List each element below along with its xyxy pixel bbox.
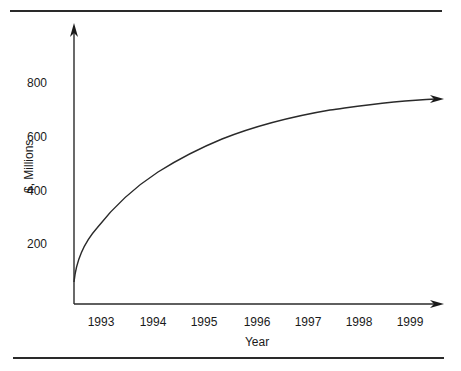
y-tick-200: 200: [13, 237, 47, 251]
x-tick-1997: 1997: [288, 315, 328, 329]
x-tick-1999: 1999: [390, 315, 430, 329]
x-tick-1995: 1995: [184, 315, 224, 329]
x-tick-1994: 1994: [133, 315, 173, 329]
y-tick-800: 800: [13, 76, 47, 90]
y-tick-400: 400: [13, 184, 47, 198]
x-tick-1993: 1993: [81, 315, 121, 329]
x-tick-1998: 1998: [339, 315, 379, 329]
y-tick-600: 600: [13, 130, 47, 144]
x-tick-1996: 1996: [237, 315, 277, 329]
data-curve: [74, 95, 444, 282]
x-axis: [74, 300, 444, 308]
x-axis-label: Year: [237, 335, 277, 349]
y-axis: [70, 23, 78, 304]
